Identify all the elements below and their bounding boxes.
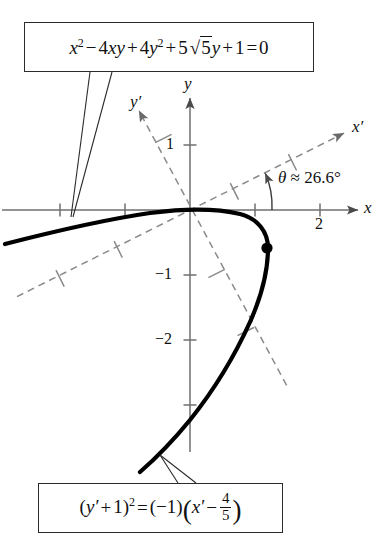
eq-top-coef-4: 4 bbox=[99, 37, 109, 58]
eq-top-x-exponent: 2 bbox=[78, 36, 84, 50]
y-tick-label-neg1: −1 bbox=[155, 265, 172, 283]
eq-top-plus-1: + bbox=[125, 37, 140, 58]
eq-bot-equals: = bbox=[135, 497, 150, 518]
eq-top-y-exponent: 2 bbox=[158, 36, 164, 50]
eq-top-coef-5: 5 bbox=[178, 37, 188, 58]
eq-bot-fraction: 45 bbox=[220, 491, 232, 524]
leader-top bbox=[71, 72, 112, 217]
degree-symbol: ° bbox=[334, 168, 341, 187]
radicand-5: 5 bbox=[200, 36, 212, 58]
figure-canvas bbox=[0, 0, 391, 543]
y-prime-axis-label: y′ bbox=[130, 92, 141, 112]
eq-bot-neg-one: (−1) bbox=[150, 497, 183, 518]
eq-top-radical: √5 bbox=[188, 38, 212, 57]
eq-bot-plus: + bbox=[98, 497, 113, 518]
eq-top-plus-2: + bbox=[164, 37, 179, 58]
rotated-equation-text: (y′+1)2=(−1)(x′−45) bbox=[80, 491, 242, 524]
y-axis-label: y bbox=[184, 74, 192, 94]
eq-bot-y-prime: y′ bbox=[86, 497, 99, 518]
eq-top-xy: xy bbox=[108, 37, 125, 58]
eq-top-zero: 0 bbox=[259, 37, 269, 58]
eq-top-y: y bbox=[149, 37, 157, 58]
eq-top-x: x bbox=[69, 37, 77, 58]
vertex-marker bbox=[261, 242, 272, 253]
original-equation-box: x2−4xy+4y2+5√5y+1=0 bbox=[24, 22, 314, 72]
angle-value: 26.6 bbox=[304, 168, 334, 187]
eq-bot-one: 1 bbox=[113, 497, 123, 518]
eq-top-coef-4b: 4 bbox=[140, 37, 150, 58]
eq-top-equals: = bbox=[244, 37, 259, 58]
eq-top-one: 1 bbox=[235, 37, 245, 58]
approx-symbol: ≈ bbox=[291, 168, 300, 187]
original-equation-text: x2−4xy+4y2+5√5y+1=0 bbox=[69, 37, 268, 57]
eq-bot-big-lparen: ( bbox=[183, 496, 192, 526]
fraction-denominator: 5 bbox=[220, 508, 232, 524]
x-axis-label: x bbox=[364, 198, 372, 218]
eq-top-y2: y bbox=[212, 37, 220, 58]
leader-bottom bbox=[160, 455, 196, 483]
angle-label: θ ≈ 26.6° bbox=[278, 168, 341, 188]
radical-sign: √ bbox=[190, 37, 200, 58]
eq-bot-minus: − bbox=[204, 497, 219, 518]
rotated-equation-box: (y′+1)2=(−1)(x′−45) bbox=[38, 483, 283, 533]
y-tick-label-1: 1 bbox=[166, 135, 174, 153]
angle-arc bbox=[265, 173, 272, 210]
eq-bot-x-prime: x′ bbox=[192, 497, 205, 518]
eq-bot-big-rparen: ) bbox=[232, 496, 241, 526]
y-axis bbox=[184, 98, 197, 452]
conic-curve bbox=[5, 210, 273, 472]
fraction-numerator: 4 bbox=[220, 491, 232, 508]
eq-top-minus: − bbox=[84, 37, 99, 58]
x-prime-axis-label: x′ bbox=[352, 117, 363, 137]
x-prime-axis bbox=[17, 133, 344, 296]
conic-rotation-figure: x2−4xy+4y2+5√5y+1=0 (y′+1)2=(−1)(x′−45) … bbox=[0, 0, 391, 543]
x-tick-label-2: 2 bbox=[315, 215, 323, 233]
eq-top-plus-3: + bbox=[220, 37, 235, 58]
y-tick-label-neg2: −2 bbox=[155, 330, 172, 348]
theta-symbol: θ bbox=[278, 168, 286, 187]
